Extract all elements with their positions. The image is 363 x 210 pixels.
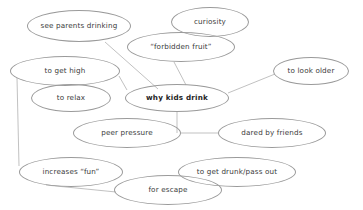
node-label-curiosity: curiosity xyxy=(194,18,226,25)
node-gethigh[interactable]: to get high xyxy=(10,56,120,86)
node-lookolder[interactable]: to look older xyxy=(273,57,349,85)
concept-map-canvas: see parents drinkingcuriosity“forbidden … xyxy=(0,0,363,210)
node-label-peer: peer pressure xyxy=(101,129,153,136)
node-escape[interactable]: for escape xyxy=(114,175,222,205)
node-dared[interactable]: dared by friends xyxy=(218,118,326,148)
node-label-escape: for escape xyxy=(148,186,187,193)
node-label-drunk: to get drunk/pass out xyxy=(197,168,277,175)
node-label-dared: dared by friends xyxy=(241,129,302,136)
node-label-lookolder: to look older xyxy=(287,67,334,74)
node-label-parents: see parents drinking xyxy=(41,22,118,29)
node-label-central: why kids drink xyxy=(146,94,208,101)
node-label-relax: to relax xyxy=(57,94,86,101)
node-fun[interactable]: increases “fun” xyxy=(19,157,123,187)
node-label-gethigh: to get high xyxy=(45,67,86,74)
node-layer: see parents drinkingcuriosity“forbidden … xyxy=(0,0,363,210)
node-parents[interactable]: see parents drinking xyxy=(27,10,131,42)
node-label-fun: increases “fun” xyxy=(42,168,99,175)
node-forbidden[interactable]: “forbidden fruit” xyxy=(127,32,235,62)
node-relax[interactable]: to relax xyxy=(31,84,111,112)
node-central[interactable]: why kids drink xyxy=(125,84,229,112)
node-label-forbidden: “forbidden fruit” xyxy=(150,43,211,50)
node-peer[interactable]: peer pressure xyxy=(73,118,181,148)
